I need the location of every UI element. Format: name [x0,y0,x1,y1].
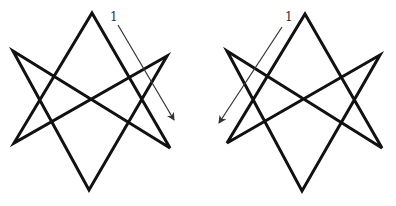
left-start-label: 1 [110,11,118,23]
right-direction-arrow [219,27,282,123]
left-hexagram-path [13,13,170,190]
right-hexagram [227,14,382,191]
left-hexagram [13,13,170,190]
right-hexagram-path [227,14,382,191]
right-start-label: 1 [285,11,293,23]
diagram-canvas [0,0,396,206]
